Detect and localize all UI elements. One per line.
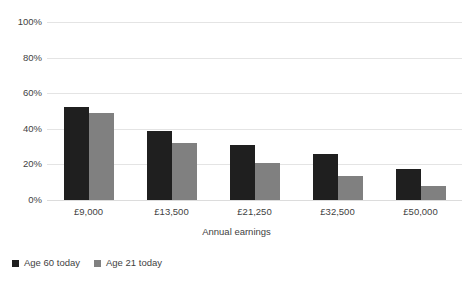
x-axis-tick-label: £21,250	[213, 206, 296, 218]
x-axis-tick-label: £32,500	[296, 206, 379, 218]
bar	[147, 131, 172, 200]
y-axis-tick-label: 40%	[0, 124, 42, 134]
bar-group	[64, 22, 114, 200]
y-axis-tick-label: 20%	[0, 159, 42, 169]
plot-area	[47, 22, 462, 200]
bar	[255, 163, 280, 200]
bar	[230, 145, 255, 200]
y-axis-tick-label: 60%	[0, 88, 42, 98]
legend-item[interactable]: Age 60 today	[12, 258, 80, 268]
y-axis-tick-label: 0%	[0, 195, 42, 205]
bar-group	[313, 22, 363, 200]
y-axis-tick-label: 80%	[0, 53, 42, 63]
legend-swatch-icon	[12, 260, 19, 267]
chart-legend: Age 60 todayAge 21 today	[12, 258, 162, 268]
bar	[396, 169, 421, 200]
legend-swatch-icon	[94, 260, 101, 267]
legend-label: Age 21 today	[106, 258, 162, 268]
bar	[89, 113, 114, 200]
y-axis: 100%80%60%40%20%0%	[0, 0, 42, 286]
x-axis: £9,000£13,500£21,250£32,500£50,000	[47, 206, 462, 222]
gridline	[47, 200, 462, 201]
bar	[313, 154, 338, 200]
bar	[421, 186, 446, 200]
legend-item[interactable]: Age 21 today	[94, 258, 162, 268]
bar-group	[230, 22, 280, 200]
bar	[64, 107, 89, 200]
x-axis-title: Annual earnings	[0, 226, 473, 237]
x-axis-tick-label: £50,000	[379, 206, 462, 218]
legend-label: Age 60 today	[24, 258, 80, 268]
bar-chart: 100%80%60%40%20%0% £9,000£13,500£21,250£…	[0, 0, 473, 286]
bar-group	[396, 22, 446, 200]
bar	[338, 176, 363, 200]
bar	[172, 143, 197, 200]
y-axis-tick-label: 100%	[0, 17, 42, 27]
x-axis-tick-label: £9,000	[47, 206, 130, 218]
x-axis-tick-label: £13,500	[130, 206, 213, 218]
bar-group	[147, 22, 197, 200]
